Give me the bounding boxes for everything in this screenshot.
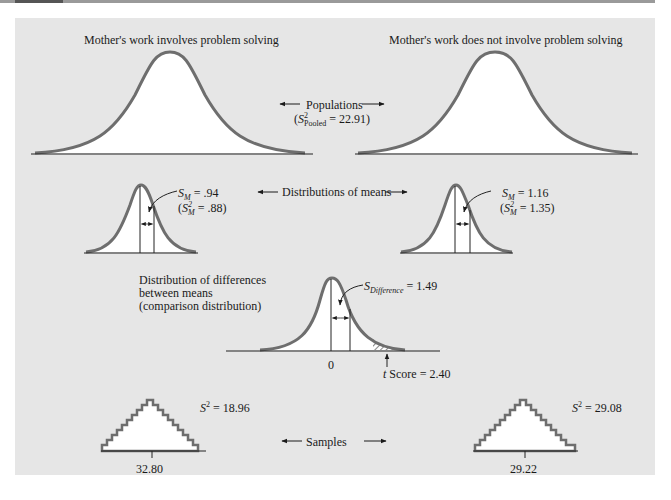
right-population-title: Mother's work does not involve problem s…: [389, 33, 622, 47]
population-right-curve: [355, 52, 638, 154]
figure-graphics: [0, 0, 671, 500]
populations-label: Populations: [306, 98, 363, 112]
sample-left-mean: 32.80: [136, 462, 163, 476]
means-right-curve: [400, 185, 513, 253]
sample-right-mean: 29.22: [510, 462, 537, 476]
sample-right-variance: S2 = 29.08: [572, 401, 622, 415]
pooled-variance: (S2Pooled = 22.91): [294, 112, 370, 128]
sd-difference-label: SDifference = 1.49: [364, 279, 437, 293]
zero-tick-label: 0: [328, 358, 334, 372]
samples-label: Samples: [306, 435, 347, 449]
t-score-label: t Score = 2.40: [383, 367, 450, 381]
comparison-label-line1: Distribution of differences: [139, 273, 266, 287]
means-right-variance: (S2M = 1.35): [500, 201, 554, 217]
left-population-title: Mother's work involves problem solving: [84, 33, 279, 47]
means-left-sm: SM = .94: [178, 186, 218, 200]
sample-left-variance: S2 = 18.96: [200, 401, 250, 415]
population-left-curve: [31, 52, 313, 154]
means-right-sm: SM = 1.16: [502, 186, 548, 200]
sample-left-histogram: [101, 400, 206, 458]
sample-right-histogram: [473, 400, 578, 458]
comparison-label-line2: between means: [139, 286, 213, 300]
means-left-variance: (S2M = .88): [178, 201, 226, 217]
distributions-of-means-label: Distributions of means: [282, 185, 391, 199]
comparison-label-line3: (comparison distribution): [139, 299, 261, 313]
